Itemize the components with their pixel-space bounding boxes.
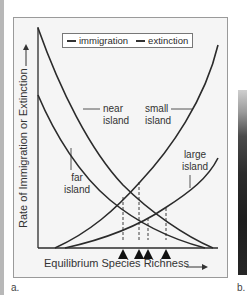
legend-swatch-icon xyxy=(67,40,76,42)
far-island-label: far island xyxy=(63,172,91,196)
small-island-label: small island xyxy=(145,103,171,127)
x-axis-label: Equilibrium Species Richness xyxy=(44,257,189,269)
legend-swatch-icon xyxy=(136,40,145,42)
x-axis-arrow-icon xyxy=(202,264,208,270)
large-island-label: large island xyxy=(180,149,210,173)
legend: immigrationextinction xyxy=(62,33,193,48)
near-island-label: near island xyxy=(103,103,129,127)
panel-b-photo xyxy=(238,90,247,275)
y-axis-label: Rate of Immigration or Extinction xyxy=(17,68,29,228)
small-island-extinction-curve xyxy=(55,45,218,248)
y-axis-arrow-icon xyxy=(23,44,29,50)
legend-item-immigration: immigration xyxy=(67,34,128,47)
panel-b-label: b. xyxy=(237,282,245,293)
near-island-immigration-curve xyxy=(38,28,213,248)
panel-a-label: a. xyxy=(11,282,19,293)
legend-item-extinction: extinction xyxy=(136,34,188,47)
